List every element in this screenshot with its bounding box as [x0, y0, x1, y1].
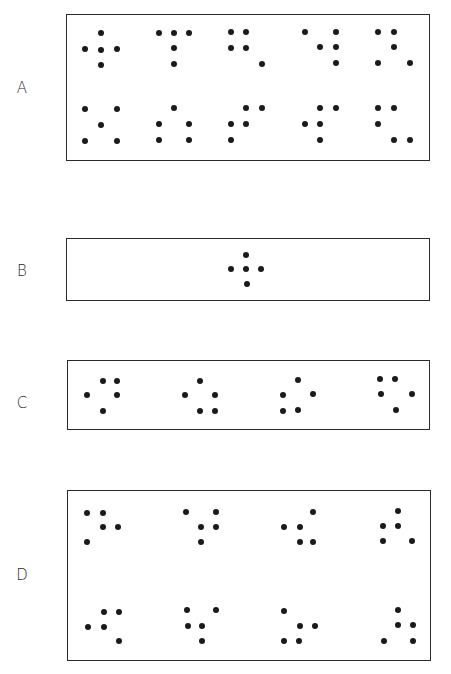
dot-icon: [280, 408, 286, 414]
dot-icon: [281, 524, 287, 530]
dot-icon: [228, 45, 234, 51]
dot-icon: [114, 106, 120, 112]
dot-icon: [377, 376, 383, 382]
dot-icon: [258, 266, 264, 272]
dot-icon: [281, 608, 287, 614]
dot-icon: [302, 121, 308, 127]
dot-icon: [410, 622, 416, 628]
dot-icon: [228, 266, 234, 272]
dot-icon: [297, 539, 303, 545]
dot-icon: [101, 609, 107, 615]
dot-icon: [391, 29, 397, 35]
dot-icon: [82, 106, 88, 112]
dot-icon: [100, 524, 106, 530]
dot-icon: [198, 524, 204, 530]
dot-icon: [281, 638, 287, 644]
dot-icon: [98, 122, 104, 128]
dot-icon: [295, 407, 301, 413]
dot-icon: [212, 408, 218, 414]
dot-icon: [197, 408, 203, 414]
dot-icon: [186, 121, 192, 127]
dot-icon: [156, 121, 162, 127]
dot-icon: [244, 281, 250, 287]
dot-icon: [171, 45, 177, 51]
dot-icon: [375, 60, 381, 66]
dot-icon: [199, 623, 205, 629]
dot-icon: [243, 29, 249, 35]
dot-icon: [114, 392, 120, 398]
panel-label-d: D: [12, 567, 32, 583]
dot-icon: [213, 524, 219, 530]
dot-icon: [297, 623, 303, 629]
dot-icon: [375, 121, 381, 127]
dot-icon: [100, 510, 106, 516]
dot-icon: [317, 121, 323, 127]
dot-icon: [156, 137, 162, 143]
dot-icon: [407, 60, 413, 66]
dot-icon: [409, 538, 415, 544]
dot-icon: [84, 392, 90, 398]
panel-label-b: B: [12, 263, 32, 279]
panel-c: [67, 360, 430, 430]
dot-icon: [375, 29, 381, 35]
dot-icon: [114, 46, 120, 52]
dot-icon: [243, 45, 249, 51]
dot-icon: [295, 377, 301, 383]
dot-icon: [407, 137, 413, 143]
dot-icon: [213, 607, 219, 613]
dot-icon: [115, 524, 121, 530]
dot-icon: [85, 624, 91, 630]
dot-icon: [391, 137, 397, 143]
dot-icon: [333, 29, 339, 35]
panel-d: [67, 490, 431, 661]
dot-icon: [243, 105, 249, 111]
dot-icon: [198, 539, 204, 545]
dot-icon: [395, 622, 401, 628]
dot-icon: [100, 408, 106, 414]
dot-icon: [183, 509, 189, 515]
dot-icon: [116, 609, 122, 615]
dot-icon: [392, 376, 398, 382]
dot-icon: [380, 538, 386, 544]
dot-icon: [182, 392, 188, 398]
dot-icon: [184, 607, 190, 613]
dot-icon: [378, 391, 384, 397]
dot-icon: [243, 121, 249, 127]
dot-icon: [259, 105, 265, 111]
dot-icon: [82, 46, 88, 52]
dot-icon: [100, 378, 106, 384]
dot-icon: [116, 638, 122, 644]
dot-icon: [317, 105, 323, 111]
dot-icon: [395, 607, 401, 613]
dot-icon: [171, 61, 177, 67]
dot-icon: [393, 407, 399, 413]
dot-icon: [197, 378, 203, 384]
dot-icon: [310, 391, 316, 397]
dot-icon: [310, 539, 316, 545]
dot-icon: [380, 523, 386, 529]
dot-icon: [395, 508, 401, 514]
dot-icon: [333, 60, 339, 66]
dot-icon: [317, 44, 323, 50]
dot-icon: [84, 539, 90, 545]
dot-icon: [228, 137, 234, 143]
dot-icon: [114, 378, 120, 384]
dot-icon: [228, 29, 234, 35]
dot-icon: [302, 29, 308, 35]
dot-icon: [333, 44, 339, 50]
dot-icon: [243, 266, 249, 272]
dot-icon: [317, 137, 323, 143]
dot-icon: [199, 638, 205, 644]
dot-icon: [395, 523, 401, 529]
dot-icon: [84, 510, 90, 516]
dot-icon: [391, 105, 397, 111]
dot-icon: [381, 638, 387, 644]
dot-icon: [185, 623, 191, 629]
dot-icon: [156, 30, 162, 36]
panel-label-a: A: [12, 80, 32, 96]
panel-label-c: C: [12, 395, 32, 411]
dot-icon: [186, 137, 192, 143]
dot-icon: [98, 62, 104, 68]
dot-icon: [297, 524, 303, 530]
dot-icon: [171, 105, 177, 111]
